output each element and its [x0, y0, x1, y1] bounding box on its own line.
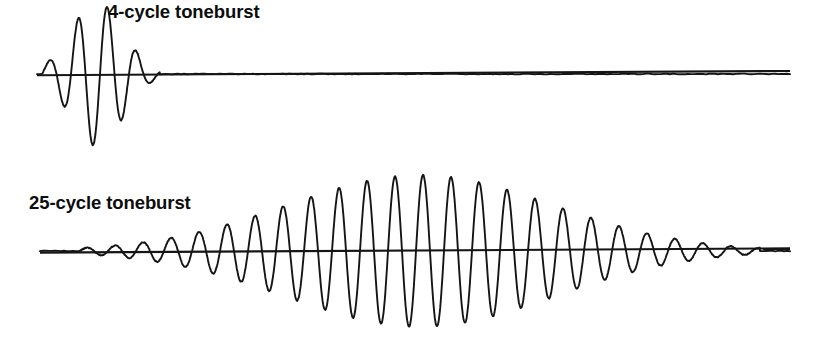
waveform-canvas: [0, 0, 817, 340]
label-4-cycle-toneburst: 4-cycle toneburst: [108, 1, 260, 23]
toneburst-figure: 4-cycle toneburst 25-cycle toneburst: [0, 0, 817, 340]
label-25-cycle-toneburst: 25-cycle toneburst: [29, 192, 191, 214]
waveform-4-cycle: [37, 7, 790, 145]
